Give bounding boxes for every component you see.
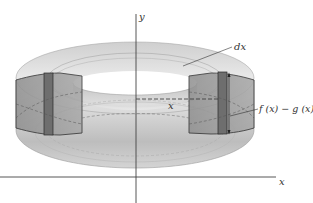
diagram: y x dx x f (x) − g (x) — [0, 0, 313, 203]
left-shell-strip — [44, 73, 53, 135]
torus-figure — [0, 0, 313, 203]
right-shell-strip — [218, 72, 227, 134]
y-axis-label: y — [139, 12, 145, 22]
dx-label: dx — [234, 42, 246, 52]
x-axis-label: x — [279, 177, 285, 187]
radius-label: x — [168, 101, 174, 111]
inner-hole — [73, 71, 197, 95]
height-label: f (x) − g (x) — [259, 104, 313, 114]
